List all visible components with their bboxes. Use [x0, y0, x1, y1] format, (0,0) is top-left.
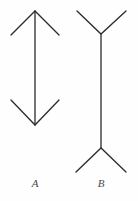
- canvas-background: [0, 0, 138, 201]
- figure-a-label: A: [23, 178, 47, 189]
- figure-drawing-canvas: [0, 0, 138, 201]
- figure-b-label: B: [89, 178, 113, 189]
- figure-container: A B: [0, 0, 138, 201]
